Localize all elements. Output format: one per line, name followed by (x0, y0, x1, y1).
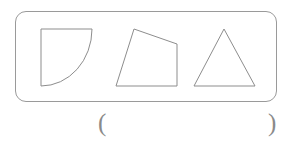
worksheet: ( ) (0, 0, 290, 149)
answer-close-paren: ) (268, 108, 276, 138)
shape-group-box (15, 11, 277, 102)
answer-row: ( ) (92, 108, 282, 142)
answer-blank[interactable] (112, 110, 264, 138)
answer-open-paren: ( (98, 108, 106, 138)
